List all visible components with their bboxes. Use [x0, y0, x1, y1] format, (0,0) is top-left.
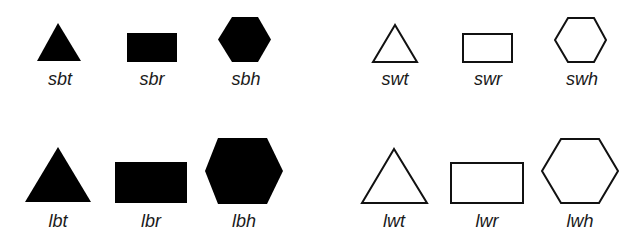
label-sbh: sbh [231, 70, 260, 88]
label-swh: swh [566, 70, 598, 88]
large-white-rectangle-icon [451, 163, 523, 203]
label-lbh: lbh [232, 212, 256, 230]
large-black-hexagon-icon [205, 138, 283, 204]
label-lbt: lbt [48, 212, 67, 230]
small-white-hexagon-icon [555, 18, 606, 62]
label-lwr: lwr [476, 212, 499, 230]
label-sbt: sbt [48, 70, 72, 88]
large-black-triangle-icon [25, 147, 91, 202]
small-black-triangle-icon [37, 23, 81, 61]
small-white-rectangle-icon [463, 34, 512, 62]
shapes-diagram [0, 0, 642, 238]
label-lwh: lwh [566, 212, 593, 230]
label-lbr: lbr [141, 212, 161, 230]
small-white-triangle-icon [373, 25, 417, 62]
large-white-triangle-icon [362, 149, 427, 203]
small-black-hexagon-icon [218, 17, 271, 62]
label-sbr: sbr [139, 70, 164, 88]
large-black-rectangle-icon [115, 162, 187, 203]
label-swr: swr [474, 70, 502, 88]
small-black-rectangle-icon [127, 33, 177, 62]
large-white-hexagon-icon [542, 139, 618, 203]
label-swt: swt [382, 70, 409, 88]
label-lwt: lwt [383, 212, 405, 230]
